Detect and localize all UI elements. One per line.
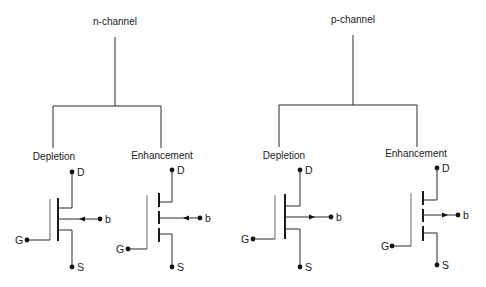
body-label: b (336, 211, 342, 223)
source-terminal-dot (170, 265, 175, 270)
n-enhancement-label: Enhancement (131, 150, 193, 161)
drain-lead (423, 168, 437, 200)
mosfet-classification-diagram: n-channel Depletion Enhancement p-channe… (0, 0, 486, 287)
drain-label: D (177, 164, 185, 176)
source-lead (423, 233, 437, 265)
p-enhancement-label: Enhancement (385, 148, 447, 159)
body-terminal-dot (456, 213, 461, 218)
drain-label: D (442, 162, 450, 174)
arrow-in-icon (79, 217, 85, 222)
arrow-in-icon (183, 216, 189, 221)
gate-label: G (381, 240, 389, 252)
n-enhancement-mosfet-symbol: D G b S (116, 164, 211, 273)
p-channel-title: p-channel (331, 14, 375, 25)
p-depletion-label: Depletion (263, 150, 305, 161)
n-depletion-mosfet-symbol: D G b S (15, 166, 111, 273)
body-terminal-dot (198, 216, 203, 221)
p-depletion-mosfet-symbol: D G b S (241, 164, 342, 273)
body-label: b (105, 213, 111, 225)
arrow-out-icon (309, 215, 315, 220)
gate-label: G (241, 233, 249, 245)
source-label: S (305, 261, 312, 273)
source-terminal-dot (70, 265, 75, 270)
source-lead (285, 229, 300, 267)
drain-lead (58, 172, 72, 208)
gate-terminal-dot (25, 238, 30, 243)
arrow-out-icon (442, 213, 448, 218)
drain-lead (159, 170, 172, 202)
gate-label: G (15, 234, 23, 246)
n-channel-tree: n-channel Depletion Enhancement (33, 16, 193, 162)
source-terminal-dot (298, 265, 303, 270)
source-terminal-dot (435, 263, 440, 268)
source-label: S (177, 261, 184, 273)
source-label: S (442, 259, 449, 271)
gate-terminal-dot (390, 244, 395, 249)
n-depletion-label: Depletion (33, 151, 75, 162)
drain-label: D (305, 164, 313, 176)
body-terminal-dot (329, 215, 334, 220)
source-label: S (77, 261, 84, 273)
gate-terminal-dot (126, 247, 131, 252)
p-channel-tree: p-channel Depletion Enhancement (263, 14, 447, 161)
gate-terminal-dot (251, 237, 256, 242)
source-lead (58, 230, 72, 267)
n-channel-title: n-channel (93, 16, 137, 27)
body-terminal-dot (98, 217, 103, 222)
body-label: b (463, 209, 469, 221)
p-enhancement-mosfet-symbol: D G b S (381, 162, 469, 271)
source-lead (159, 234, 172, 267)
drain-label: D (77, 166, 85, 178)
gate-label: G (116, 243, 124, 255)
body-label: b (205, 212, 211, 224)
drain-lead (285, 170, 300, 206)
